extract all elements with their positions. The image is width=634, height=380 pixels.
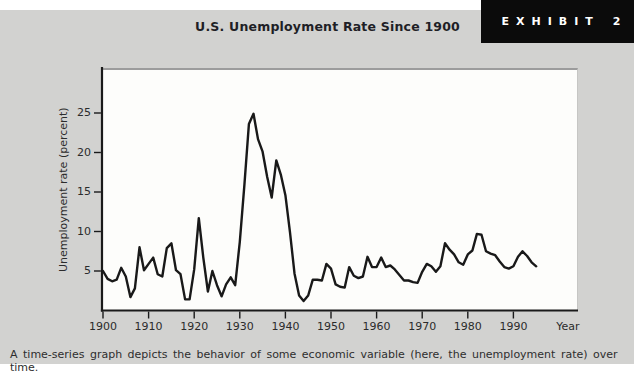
exhibit-badge: EXHIBIT 2 [481, 0, 634, 43]
exhibit-number: 2 [613, 15, 621, 28]
plot-area [101, 68, 578, 311]
exhibit-label: EXHIBIT [495, 15, 600, 28]
x-tick-label: 1920 [172, 320, 216, 333]
x-tick-label: 1990 [491, 320, 535, 333]
figure-caption: A time-series graph depicts the behavior… [10, 348, 626, 374]
x-tick-label: 1930 [218, 320, 262, 333]
x-tick-label: 1900 [81, 320, 125, 333]
y-tick-label: 25 [61, 106, 91, 119]
x-tick-label: 1970 [400, 320, 444, 333]
y-tick-label: 5 [61, 264, 91, 277]
y-tick-label: 15 [61, 185, 91, 198]
y-tick-label: 10 [61, 225, 91, 238]
x-tick-label: 1960 [355, 320, 399, 333]
x-tick-label: 1950 [309, 320, 353, 333]
chart-title: U.S. Unemployment Rate Since 1900 [100, 19, 460, 34]
y-tick-label: 20 [61, 146, 91, 159]
exhibit-figure: U.S. Unemployment Rate Since 1900 EXHIBI… [0, 0, 634, 380]
x-tick-label: 1940 [263, 320, 307, 333]
x-tick-label: 1910 [127, 320, 171, 333]
x-tick-label: 1980 [446, 320, 490, 333]
x-axis-title: Year [545, 320, 591, 333]
